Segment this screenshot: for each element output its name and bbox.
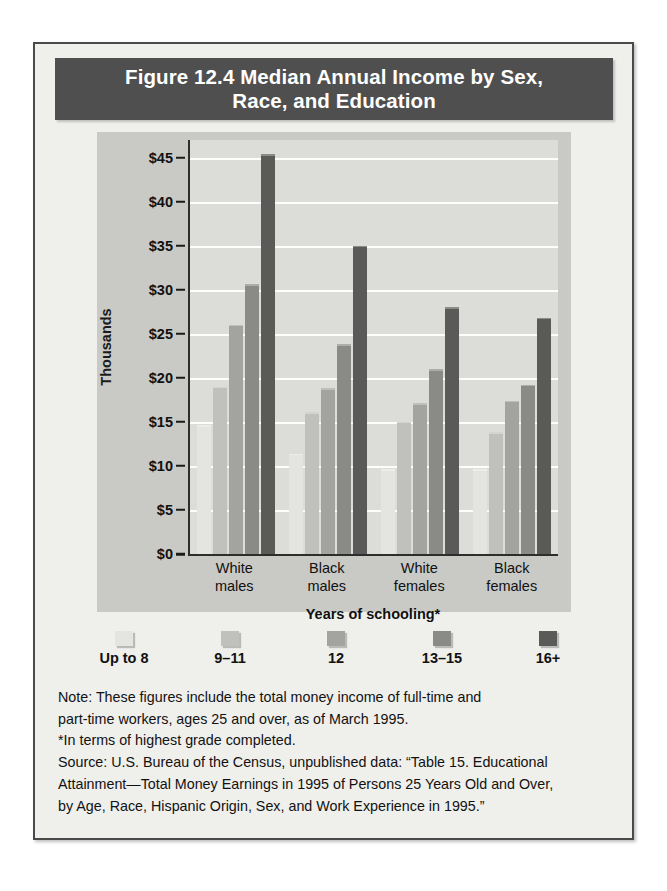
y-tick-label: $5 bbox=[157, 502, 173, 518]
legend-item[interactable]: 16+ bbox=[495, 631, 601, 666]
legend-item[interactable]: Up to 8 bbox=[71, 631, 177, 666]
x-category-line: White bbox=[401, 560, 438, 576]
title-line-2: Race, and Education bbox=[232, 89, 436, 112]
x-category-label: Blackmales bbox=[281, 560, 374, 595]
plot-area bbox=[188, 140, 558, 556]
bar bbox=[229, 325, 243, 554]
bar bbox=[245, 284, 259, 554]
bar bbox=[413, 403, 427, 554]
y-tick-mark bbox=[176, 377, 185, 380]
bar-group bbox=[190, 140, 282, 554]
y-tick-mark bbox=[176, 509, 185, 512]
chart-panel: Thousands $0$5$10$15$20$25$30$35$40$45 W… bbox=[97, 132, 571, 612]
y-tick-mark bbox=[176, 465, 185, 468]
source-line-2: Attainment—Total Money Earnings in 1995 … bbox=[58, 774, 618, 796]
legend-item[interactable]: 12 bbox=[283, 631, 389, 666]
x-category-line: Black bbox=[494, 560, 529, 576]
legend-label: 16+ bbox=[536, 650, 561, 666]
y-tick-label: $0 bbox=[157, 546, 173, 562]
x-category-line: White bbox=[216, 560, 253, 576]
legend-swatch bbox=[433, 631, 451, 646]
bar bbox=[429, 369, 443, 554]
y-axis-ticks: $0$5$10$15$20$25$30$35$40$45 bbox=[117, 132, 187, 562]
note-line-1: Note: These figures include the total mo… bbox=[58, 687, 618, 709]
bar bbox=[445, 307, 459, 554]
bar bbox=[473, 469, 487, 554]
legend-label: Up to 8 bbox=[99, 650, 148, 666]
chart-legend: Up to 89–111213–1516+ bbox=[71, 631, 601, 666]
y-tick-label: $30 bbox=[149, 282, 173, 298]
figure-page: Figure 12.4 Median Annual Income by Sex,… bbox=[0, 0, 667, 891]
bars-layer bbox=[190, 140, 558, 554]
bar bbox=[521, 385, 535, 554]
bar bbox=[489, 432, 503, 554]
bar-group bbox=[466, 140, 558, 554]
x-axis-label: Years of schooling* bbox=[188, 606, 558, 622]
source-line-3: by Age, Race, Hispanic Origin, Sex, and … bbox=[58, 796, 618, 818]
bar bbox=[197, 425, 211, 554]
bar bbox=[353, 246, 367, 554]
note-line-2: part-time workers, ages 25 and over, as … bbox=[58, 709, 618, 731]
legend-item[interactable]: 13–15 bbox=[389, 631, 495, 666]
legend-swatch bbox=[115, 631, 133, 646]
page-title: Figure 12.4 Median Annual Income by Sex,… bbox=[115, 65, 553, 113]
bar bbox=[321, 388, 335, 554]
figure-notes: Note: These figures include the total mo… bbox=[58, 687, 618, 817]
x-category-line: females bbox=[486, 578, 537, 594]
legend-label: 12 bbox=[328, 650, 344, 666]
bar bbox=[505, 401, 519, 554]
legend-label: 9–11 bbox=[214, 650, 245, 666]
footnote-line: *In terms of highest grade completed. bbox=[58, 730, 618, 752]
y-tick-mark bbox=[176, 244, 185, 247]
legend-swatch bbox=[539, 631, 557, 646]
bar bbox=[261, 154, 275, 554]
bar bbox=[537, 318, 551, 554]
legend-label: 13–15 bbox=[422, 650, 462, 666]
bar bbox=[381, 469, 395, 554]
y-tick-label: $15 bbox=[149, 414, 173, 430]
x-category-line: females bbox=[394, 578, 445, 594]
figure-title-banner: Figure 12.4 Median Annual Income by Sex,… bbox=[55, 58, 613, 120]
y-tick-label: $45 bbox=[149, 150, 173, 166]
legend-item[interactable]: 9–11 bbox=[177, 631, 283, 666]
bar bbox=[337, 344, 351, 554]
source-line-1: Source: U.S. Bureau of the Census, unpub… bbox=[58, 752, 618, 774]
bar-group bbox=[374, 140, 466, 554]
legend-swatch bbox=[221, 631, 239, 646]
y-tick-label: $10 bbox=[149, 458, 173, 474]
figure-frame: Figure 12.4 Median Annual Income by Sex,… bbox=[33, 42, 634, 840]
y-tick-mark bbox=[176, 333, 185, 336]
x-category-label: Whitefemales bbox=[373, 560, 466, 595]
legend-swatch bbox=[327, 631, 345, 646]
y-tick-label: $20 bbox=[149, 370, 173, 386]
title-line-1: Figure 12.4 Median Annual Income by Sex, bbox=[125, 65, 543, 88]
y-tick-mark bbox=[176, 553, 185, 556]
y-tick-mark bbox=[176, 156, 185, 159]
x-category-line: males bbox=[215, 578, 254, 594]
bar-group bbox=[282, 140, 374, 554]
x-category-line: males bbox=[307, 578, 346, 594]
y-tick-label: $40 bbox=[149, 194, 173, 210]
y-tick-label: $35 bbox=[149, 238, 173, 254]
y-tick-mark bbox=[176, 421, 185, 424]
bar bbox=[397, 422, 411, 554]
y-tick-mark bbox=[176, 288, 185, 291]
x-axis-categories: WhitemalesBlackmalesWhitefemalesBlackfem… bbox=[188, 560, 558, 595]
x-category-label: Whitemales bbox=[188, 560, 281, 595]
x-category-label: Blackfemales bbox=[466, 560, 559, 595]
x-category-line: Black bbox=[309, 560, 344, 576]
bar bbox=[305, 412, 319, 554]
y-tick-label: $25 bbox=[149, 326, 173, 342]
bar bbox=[289, 454, 303, 554]
bar bbox=[213, 387, 227, 554]
y-tick-mark bbox=[176, 200, 185, 203]
y-axis-label-text: Thousands bbox=[98, 308, 114, 385]
